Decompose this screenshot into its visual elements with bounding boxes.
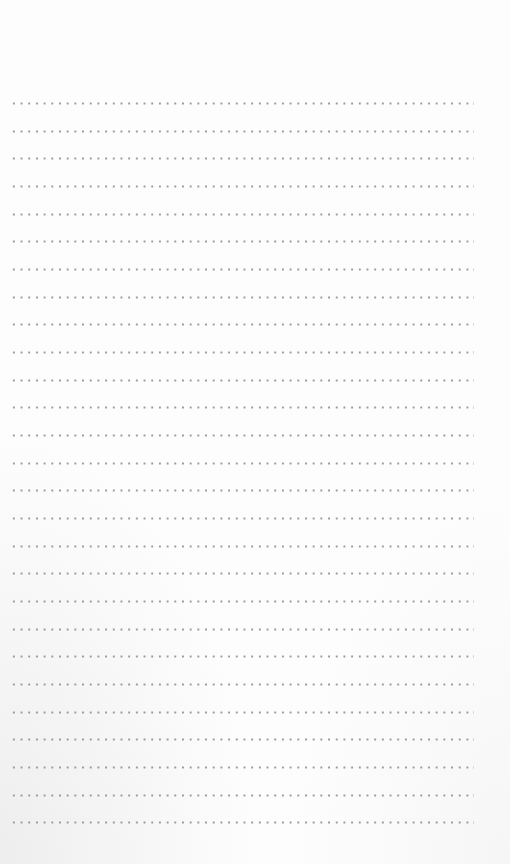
dotted-rule-line [10,655,472,658]
line-end-mark [473,517,474,520]
dotted-rule-line [10,711,472,714]
line-end-mark [473,268,474,271]
dotted-rule-line [10,268,472,271]
line-end-mark [473,628,474,631]
line-end-mark [473,572,474,575]
line-end-mark [473,406,474,409]
line-end-mark [473,323,474,326]
dotted-rule-line [10,545,472,548]
dotted-rule-line [10,517,472,520]
dotted-rule-line [10,130,472,133]
dotted-rule-line [10,406,472,409]
line-end-mark [473,130,474,133]
dotted-rule-line [10,240,472,243]
dotted-rule-line [10,379,472,382]
line-end-mark [473,711,474,714]
dotted-rule-line [10,738,472,741]
dotted-rule-line [10,821,472,824]
dotted-rule-line [10,766,472,769]
line-end-mark [473,655,474,658]
line-end-mark [473,102,474,105]
dotted-rule-line [10,434,472,437]
dotted-rule-line [10,572,472,575]
line-end-mark [473,683,474,686]
dotted-rule-line [10,683,472,686]
dotted-rule-line [10,794,472,797]
line-end-mark [473,489,474,492]
line-end-mark [473,185,474,188]
line-end-mark [473,738,474,741]
line-end-mark [473,240,474,243]
dotted-rule-line [10,296,472,299]
dotted-rule-line [10,600,472,603]
line-end-mark [473,296,474,299]
line-end-mark [473,379,474,382]
dotted-rule-line [10,628,472,631]
dotted-rule-line [10,323,472,326]
dotted-rule-line [10,462,472,465]
line-end-mark [473,351,474,354]
dotted-rule-line [10,489,472,492]
line-end-mark [473,462,474,465]
line-end-mark [473,213,474,216]
line-end-mark [473,794,474,797]
dotted-rule-line [10,157,472,160]
notepad-page [0,0,510,864]
line-end-mark [473,545,474,548]
dotted-rule-line [10,351,472,354]
line-end-mark [473,434,474,437]
dotted-rule-line [10,213,472,216]
line-end-mark [473,821,474,824]
dotted-rule-line [10,185,472,188]
line-end-mark [473,157,474,160]
line-end-mark [473,600,474,603]
line-end-mark [473,766,474,769]
dotted-rule-line [10,102,472,105]
